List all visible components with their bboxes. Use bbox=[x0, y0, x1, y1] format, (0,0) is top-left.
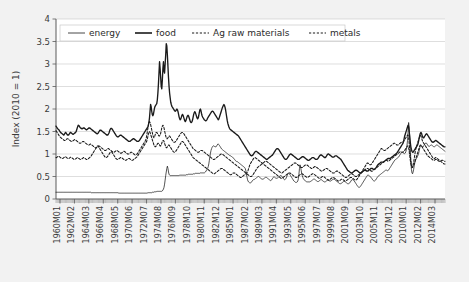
x-tick-label: 1993M05 bbox=[284, 206, 293, 243]
y-tick-label: 3.5 bbox=[36, 37, 50, 47]
x-tick-label: 1968M05 bbox=[111, 206, 120, 243]
legend-label-energy: energy bbox=[89, 28, 121, 38]
price-index-line-chart: 00.511.522.533.54 1960M011962M021964M031… bbox=[0, 0, 469, 282]
x-tick-label: 1976M09 bbox=[168, 206, 177, 243]
y-tick-label: 4 bbox=[45, 14, 50, 24]
x-tick-label: 2003M10 bbox=[356, 206, 365, 243]
x-tick-label: 1999M08 bbox=[327, 206, 336, 243]
x-tick-label: 2014M03 bbox=[428, 206, 437, 243]
x-tick-label: 1972M07 bbox=[140, 206, 149, 243]
y-tick-label: 2.5 bbox=[36, 82, 50, 92]
x-tick-label: 2007M12 bbox=[385, 206, 394, 243]
y-tick-label: 0.5 bbox=[36, 172, 50, 182]
y-tick-label: 1.5 bbox=[36, 127, 50, 137]
x-tick-label: 1978M10 bbox=[183, 206, 192, 243]
y-tick-label: 0 bbox=[45, 194, 50, 204]
x-tick-label: 1980M11 bbox=[197, 206, 206, 243]
x-tick-label: 1962M02 bbox=[67, 206, 76, 243]
y-tick-label: 1 bbox=[45, 149, 50, 159]
x-tick-label: 1964M03 bbox=[82, 206, 91, 243]
x-tick-label: 2012M02 bbox=[414, 206, 423, 243]
y-axis-title: Index (2010 = 1) bbox=[11, 71, 21, 148]
y-tick-label: 3 bbox=[45, 59, 50, 69]
x-tick-label: 1982M12 bbox=[212, 206, 221, 243]
x-tick-label: 2005M11 bbox=[370, 206, 379, 243]
x-tick-label: 1995M06 bbox=[298, 206, 307, 243]
x-tick-label: 1966M04 bbox=[96, 206, 105, 243]
legend-label-metals: metals bbox=[330, 28, 361, 38]
x-tick-label: 2010M01 bbox=[399, 206, 408, 243]
y-tick-label: 2 bbox=[45, 104, 50, 114]
legend-label-ag-raw-materials: Ag raw materials bbox=[213, 28, 290, 38]
x-tick-label: 1997M07 bbox=[313, 206, 322, 243]
x-tick-label: 1974M08 bbox=[154, 206, 163, 243]
x-tick-label: 1985M01 bbox=[226, 206, 235, 243]
x-tick-label: 2001M09 bbox=[341, 206, 350, 243]
x-tick-label: 1989M03 bbox=[255, 206, 264, 243]
x-tick-label: 1987M02 bbox=[241, 206, 250, 243]
x-tick-label: 1991M04 bbox=[269, 206, 278, 243]
x-tick-label: 1960M01 bbox=[53, 206, 62, 243]
legend-label-food: food bbox=[156, 28, 176, 38]
x-tick-label: 1970M06 bbox=[125, 206, 134, 243]
chart-legend: energyfoodAg raw materialsmetals bbox=[60, 25, 361, 41]
